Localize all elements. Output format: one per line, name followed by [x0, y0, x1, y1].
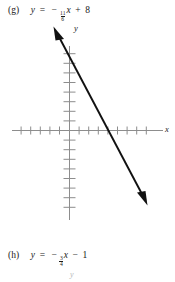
- problem-label-h: (h): [8, 250, 19, 260]
- problem-label-g: (g): [8, 5, 19, 15]
- coordinate-plane: [0, 18, 175, 228]
- equation-h-minus: −: [50, 250, 59, 260]
- equation-g-plus: +: [73, 5, 82, 15]
- equation-g-minus: −: [50, 5, 59, 15]
- next-figure-y-axis-label: y: [70, 271, 74, 279]
- equation-h: (h) y = −34x − 1: [8, 251, 87, 268]
- equation-h-equals: =: [38, 250, 47, 260]
- graph-g: y x: [0, 18, 175, 228]
- equation-g-lhs: y: [31, 5, 35, 15]
- x-axis-label: x: [165, 125, 169, 134]
- equation-g-variable: x: [66, 5, 70, 15]
- equation-g-equals: =: [38, 5, 47, 15]
- equation-g-constant: 8: [85, 5, 90, 15]
- equation-h-denominator: 4: [59, 261, 63, 268]
- line-arrow-up: [54, 27, 65, 41]
- equation-h-variable: x: [64, 250, 68, 260]
- y-axis-label: y: [74, 24, 78, 33]
- line-arrow-down: [137, 191, 148, 206]
- equation-h-plus: −: [71, 250, 80, 260]
- equation-h-constant: 1: [83, 250, 88, 260]
- equation-h-lhs: y: [31, 250, 35, 260]
- plotted-line: [58, 35, 143, 196]
